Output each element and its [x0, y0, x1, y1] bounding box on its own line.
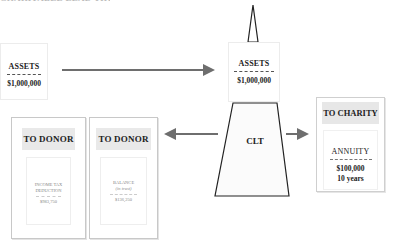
trust-assets-box: ASSETS $1,000,000 — [228, 42, 280, 102]
donor-box-balance: TO DONOR BALANCE (in trust) $136,250 — [89, 117, 158, 239]
source-assets-box: ASSETS $1,000,000 — [0, 43, 48, 100]
donor-detail: INCOME TAX DEDUCTION $983,750 — [26, 157, 71, 225]
donor-detail: BALANCE (in trust) $136,250 — [100, 157, 147, 225]
source-assets-value: $1,000,000 — [1, 79, 47, 88]
divider — [7, 74, 41, 75]
annuity-amount: $100,000 — [324, 164, 377, 173]
detail-value: $136,250 — [101, 197, 146, 203]
charity-heading: TO CHARITY — [322, 102, 379, 124]
divider — [36, 196, 62, 197]
clt-label: CLT — [233, 136, 277, 146]
detail-value: $983,750 — [27, 199, 70, 205]
donor-heading: TO DONOR — [96, 128, 151, 150]
trust-assets-value: $1,000,000 — [229, 76, 279, 85]
donor-heading: TO DONOR — [22, 128, 75, 150]
detail-line2: DEDUCTION — [27, 188, 70, 194]
charity-detail: ANNUITY $100,000 10 years — [323, 130, 378, 190]
charity-box: TO CHARITY ANNUITY $100,000 10 years — [316, 97, 385, 192]
source-assets-label: ASSETS — [1, 62, 47, 71]
donor-box-tax-deduction: TO DONOR INCOME TAX DEDUCTION $983,750 — [11, 117, 86, 239]
annuity-label: ANNUITY — [324, 147, 377, 156]
annuity-term: 10 years — [324, 174, 377, 183]
divider — [330, 159, 372, 160]
divider — [110, 194, 137, 195]
divider — [234, 71, 274, 72]
trust-assets-label: ASSETS — [229, 59, 279, 68]
detail-line2: (in trust) — [101, 186, 146, 192]
